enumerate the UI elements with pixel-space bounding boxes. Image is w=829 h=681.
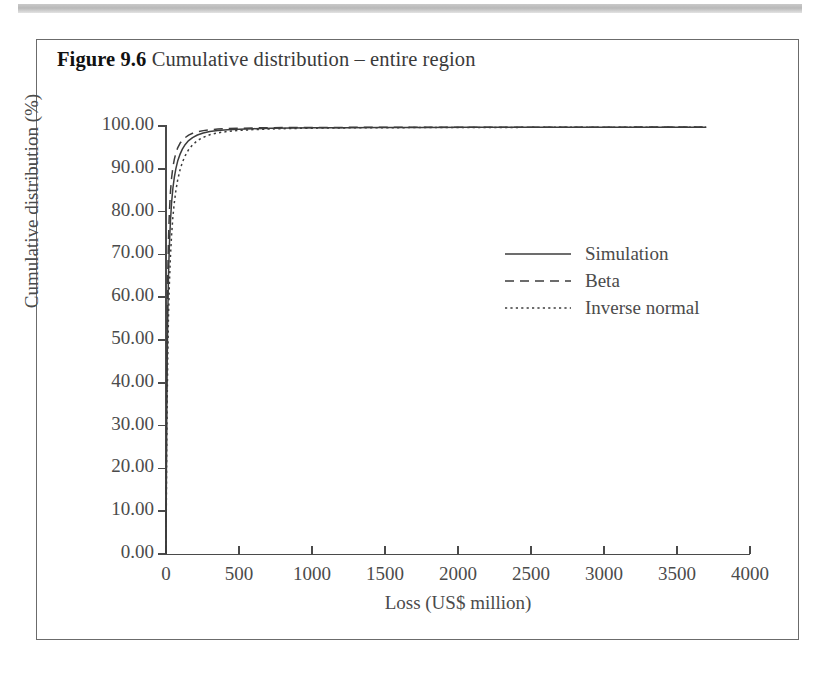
series-line-simulation bbox=[166, 127, 706, 554]
scan-edge-bar bbox=[18, 4, 802, 13]
x-tick-label: 1000 bbox=[277, 563, 347, 585]
legend-item-inverse-normal: Inverse normal bbox=[505, 294, 699, 321]
series-line-beta bbox=[166, 127, 706, 554]
x-tick-label: 500 bbox=[204, 563, 274, 585]
y-tick-mark bbox=[158, 296, 166, 298]
plot-area bbox=[166, 126, 750, 554]
x-tick-label: 2500 bbox=[496, 563, 566, 585]
y-axis-title: Cumulative distribution (%) bbox=[21, 51, 43, 351]
series-line-inverse-normal bbox=[166, 127, 706, 554]
y-tick-mark bbox=[158, 339, 166, 341]
chart-curves bbox=[166, 126, 750, 554]
y-tick-mark bbox=[158, 382, 166, 384]
x-tick-label: 3000 bbox=[569, 563, 639, 585]
figure-number: Figure 9.6 bbox=[57, 48, 146, 70]
legend-label: Simulation bbox=[585, 243, 668, 265]
y-tick-mark bbox=[158, 125, 166, 127]
legend-item-beta: Beta bbox=[505, 267, 699, 294]
x-tick-label: 3500 bbox=[642, 563, 712, 585]
page-title: Figure 9.6 Cumulative distribution – ent… bbox=[57, 48, 476, 71]
y-tick-mark bbox=[158, 211, 166, 213]
y-tick-mark bbox=[158, 168, 166, 170]
y-tick-label: 60.00 bbox=[111, 284, 154, 306]
y-tick-mark bbox=[158, 510, 166, 512]
legend-swatch-icon bbox=[505, 248, 571, 260]
x-tick-label: 0 bbox=[131, 563, 201, 585]
y-tick-mark bbox=[158, 425, 166, 427]
figure-caption: Cumulative distribution – entire region bbox=[152, 48, 476, 70]
legend-swatch-icon bbox=[505, 275, 571, 287]
y-tick-label: 50.00 bbox=[111, 327, 154, 349]
y-tick-label: 10.00 bbox=[111, 498, 154, 520]
y-tick-label: 0.00 bbox=[121, 541, 154, 563]
legend-item-simulation: Simulation bbox=[505, 240, 699, 267]
chart-legend: SimulationBetaInverse normal bbox=[505, 240, 699, 321]
legend-label: Inverse normal bbox=[585, 297, 699, 319]
y-tick-mark bbox=[158, 254, 166, 256]
y-tick-label: 70.00 bbox=[111, 241, 154, 263]
y-tick-label: 40.00 bbox=[111, 370, 154, 392]
y-tick-label: 100.00 bbox=[102, 113, 154, 135]
legend-label: Beta bbox=[585, 270, 620, 292]
y-tick-label: 20.00 bbox=[111, 455, 154, 477]
x-tick-label: 4000 bbox=[715, 563, 785, 585]
x-axis-title: Loss (US$ million) bbox=[166, 592, 750, 614]
x-tick-label: 2000 bbox=[423, 563, 493, 585]
y-tick-mark bbox=[158, 468, 166, 470]
y-tick-label: 80.00 bbox=[111, 199, 154, 221]
legend-swatch-icon bbox=[505, 302, 571, 314]
y-tick-label: 30.00 bbox=[111, 413, 154, 435]
x-tick-label: 1500 bbox=[350, 563, 420, 585]
y-tick-label: 90.00 bbox=[111, 156, 154, 178]
